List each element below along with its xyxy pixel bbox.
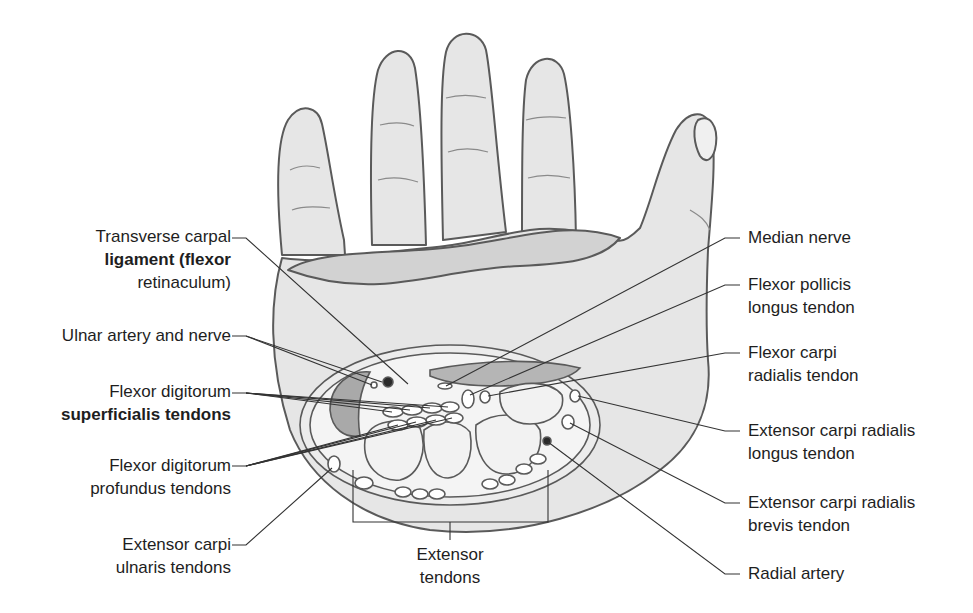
label-ulnar-artery-nerve: Ulnar artery and nerve [62,324,231,347]
ring-finger [371,51,426,245]
label-transverse-carpal-ligament: Transverse carpalligament (flexorretinac… [96,225,231,294]
label-median-nerve: Median nerve [748,226,851,249]
ecrb-tendon [562,415,574,429]
little-finger [278,108,345,255]
bone-4 [500,383,563,424]
label-flexor-digitorum-profundus: Flexor digitorumprofundus tendons [90,454,231,500]
flexor-pollicis-longus-tendon [462,390,474,408]
label-flexor-pollicis-longus: Flexor pollicislongus tendon [748,273,855,319]
label-extensor-tendons: Extensortendons [390,543,510,589]
label-radial-artery: Radial artery [748,562,844,585]
label-extensor-carpi-radialis-longus: Extensor carpi radialislongus tendon [748,419,915,465]
label-extensor-carpi-ulnaris: Extensor carpiulnaris tendons [116,533,231,579]
flexor-carpi-radialis-tendon [480,391,490,403]
label-extensor-carpi-radialis-brevis: Extensor carpi radialisbrevis tendon [748,491,915,537]
label-flexor-digitorum-superficialis: Flexor digitorumsuperficialis tendons [61,380,231,426]
middle-finger [441,34,506,240]
index-finger [522,59,576,240]
label-flexor-carpi-radialis: Flexor carpiradialis tendon [748,341,859,387]
ulnar-artery [383,377,393,387]
